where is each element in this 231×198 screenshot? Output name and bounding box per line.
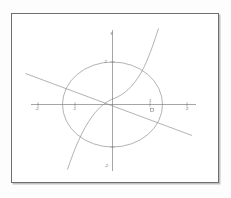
y-axis-label-neg2: -2 — [105, 164, 109, 168]
screenshot-root: -2 -1 1 2 2 -2 y — [0, 0, 231, 198]
x-axis-label-neg2: -2 — [35, 107, 39, 111]
x-axis-label-neg1: -1 — [73, 107, 77, 111]
figure-frame — [11, 13, 219, 183]
x-axis-label-pos1: 1 — [149, 99, 151, 103]
y-axis-label-pos2: 2 — [105, 60, 107, 64]
y-axis-name-label: y — [111, 31, 113, 35]
x-axis-label-pos2: 2 — [186, 107, 188, 111]
